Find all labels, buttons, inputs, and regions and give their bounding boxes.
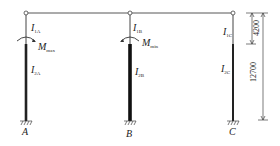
label-i1a: I1A [30,22,41,34]
label-i2c: I2C [220,63,231,75]
support-label-a: A [21,126,29,137]
support-label-c: C [229,126,236,137]
fixed-support-a [20,121,32,125]
dimension-total-value: 12700 [249,62,258,82]
label-mmin: Mmin [141,37,159,49]
pin-joint-b [128,11,132,15]
label-i1c: I1C [222,26,233,38]
dimension-upper-value: 4200 [252,20,261,36]
fixed-support-b [124,121,136,125]
pin-joint-a [24,11,28,15]
fixed-support-c [227,121,239,125]
frame-diagram: I1A Mmax I2A A I1B Mmin I2B B I1C I2C C … [0,0,280,146]
label-i2b: I2B [134,66,145,78]
column-c [227,11,239,125]
pin-joint-c [231,11,235,15]
label-mmax: Mmax [37,41,55,53]
label-i1b: I1B [132,22,143,34]
label-i2a: I2A [30,64,41,76]
support-label-b: B [126,128,132,139]
